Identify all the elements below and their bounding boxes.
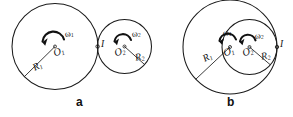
panel-a-geometry — [12, 4, 152, 90]
panel-b-omega-1-label: ω1 — [222, 27, 232, 38]
panel-a-radius-2-label: R2 — [134, 51, 145, 63]
panel-a-omega-1-label: ω1 — [64, 28, 74, 39]
panel-b-radius-2-label: R2 — [260, 50, 271, 62]
panel-b-caption: b — [227, 95, 234, 109]
panel-b-omega-2-label: ω2 — [254, 30, 264, 41]
figure-container: ω1 O1 R1 ω2 O2 R2 I a ω1 O1 R1 ω2 O2 R2 … — [0, 0, 293, 117]
panel-b-contact-point-label: I — [280, 40, 283, 50]
panel-a-omega-2-label: ω2 — [131, 28, 141, 39]
panel-a-contact-point-label: I — [101, 40, 104, 50]
figure-drawing — [0, 0, 293, 117]
panel-a-caption: a — [76, 95, 83, 109]
